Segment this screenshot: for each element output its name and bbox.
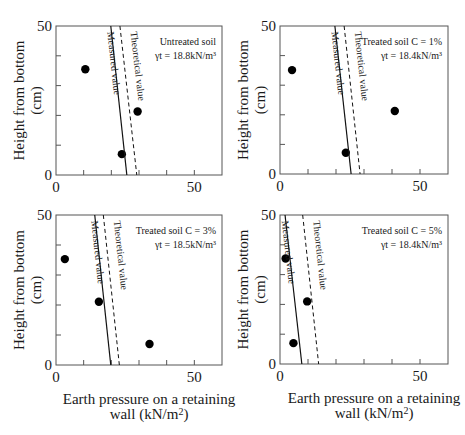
y-tick-label: 0 [269, 166, 277, 182]
soil-type-annotation: Untreated soil [160, 36, 217, 47]
y-axis-title: Height from bottom(cm) [11, 40, 45, 160]
y-axis-title: Height from bottom(cm) [235, 40, 269, 160]
unit-weight-annotation: γt = 18.4kN/m³ [380, 239, 442, 250]
x-axis-title-line2: wall (kN/m2) [110, 406, 189, 423]
x-tick-label: 0 [52, 369, 60, 385]
y-tick-label: 50 [261, 207, 276, 223]
x-tick-label: 50 [187, 179, 202, 195]
data-point [81, 65, 89, 73]
unit-weight-annotation: γt = 18.5kN/m³ [154, 239, 216, 250]
unit-weight-annotation: γt = 18.4kN/m³ [380, 50, 442, 61]
measured-value-label: Measured value [89, 220, 107, 285]
figure: 050050Height from bottom(cm)Measured val… [0, 0, 465, 435]
data-point [61, 255, 69, 263]
y-tick-label: 0 [45, 357, 53, 373]
data-point [145, 340, 153, 348]
measured-value-label: Measured value [280, 220, 298, 285]
soil-type-annotation: Treated soil C = 3% [136, 225, 216, 236]
x-axis-title: Earth pressure on a retaining [63, 391, 236, 407]
chart-panel-2: 050050Height from bottom(cm)Measured val… [235, 18, 448, 194]
y-axis-title: Height from bottom(cm) [11, 230, 45, 350]
theoretical-value-label: Theoretical value [129, 31, 148, 102]
chart-panel-3: 050050Height from bottom(cm)Earth pressu… [11, 207, 236, 423]
x-axis-title: Earth pressure on a retaining [288, 390, 461, 406]
x-tick-label: 0 [276, 368, 284, 384]
data-point [288, 66, 296, 74]
y-tick-label: 0 [45, 167, 53, 183]
x-tick-label: 0 [52, 179, 60, 195]
measured-value-label: Measured value [105, 31, 123, 96]
data-point [133, 107, 141, 115]
theoretical-value-label: Theoretical value [112, 220, 130, 291]
theoretical-value-label: Theoretical value [311, 220, 329, 291]
x-tick-label: 50 [413, 368, 428, 384]
x-tick-label: 50 [187, 369, 202, 385]
data-point [391, 107, 399, 115]
data-point [289, 339, 297, 347]
unit-weight-annotation: γt = 18.8kN/m³ [154, 50, 216, 61]
data-point [95, 298, 103, 306]
data-point [303, 297, 311, 305]
x-axis-title-line2: wall (kN/m2) [335, 405, 414, 422]
y-axis-title: Height from bottom(cm) [235, 229, 269, 349]
y-tick-label: 50 [261, 18, 276, 34]
y-tick-label: 50 [37, 207, 52, 223]
soil-type-annotation: Treated soil C = 1% [362, 36, 442, 47]
measured-value-label: Measured value [329, 31, 347, 96]
x-tick-label: 0 [276, 178, 284, 194]
soil-type-annotation: Treated soil C = 5% [362, 225, 442, 236]
chart-panel-1: 050050Height from bottom(cm)Measured val… [11, 18, 222, 195]
chart-panel-4: 050050Height from bottom(cm)Earth pressu… [235, 207, 461, 422]
plot-frame [56, 215, 222, 365]
x-tick-label: 50 [413, 178, 428, 194]
y-tick-label: 0 [269, 356, 277, 372]
y-tick-label: 50 [37, 18, 52, 34]
